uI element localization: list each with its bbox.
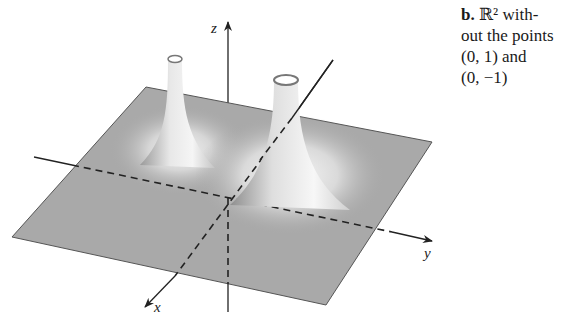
caption-line-2: out the points	[461, 25, 587, 46]
caption-line-1: b. ℝ² with-	[461, 4, 587, 25]
caption-line-4: (0, −1)	[461, 67, 587, 88]
y-axis-label: y	[422, 245, 431, 261]
x-axis-label: x	[153, 299, 161, 315]
z-axis-label: z	[210, 20, 217, 36]
part-label: b.	[461, 5, 475, 24]
y-axis-front-solid	[392, 232, 432, 241]
figure-caption: b. ℝ² with- out the points (0, 1) and (0…	[461, 4, 587, 88]
caption-line-3: (0, 1) and	[461, 46, 587, 67]
x-axis-front-dashed	[292, 60, 333, 118]
spike-right-opening	[274, 75, 298, 85]
spike-left-opening	[168, 56, 182, 63]
y-axis-back-solid	[34, 157, 72, 165]
